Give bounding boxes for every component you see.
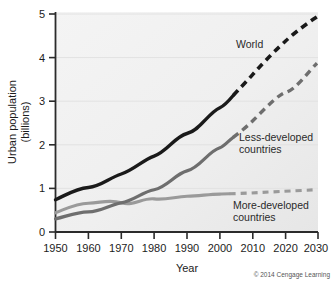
y-tick-label-5: 5 xyxy=(39,8,45,20)
x-tick-label-1960: 1960 xyxy=(76,242,100,254)
x-tick-label-1970: 1970 xyxy=(109,242,133,254)
x-tick-label-1990: 1990 xyxy=(175,242,199,254)
y-axis-title-line1: Urban population xyxy=(6,80,18,164)
series-label-world: World xyxy=(236,38,263,50)
series-label-more-developed-line2: countries xyxy=(233,211,276,223)
series-label-more-developed-line1: More-developed xyxy=(233,199,309,211)
y-tick-label-2: 2 xyxy=(39,139,45,151)
y-tick-label-3: 3 xyxy=(39,95,45,107)
chart-figure: 0 1 2 3 4 5 1950 1960 1970 1980 1990 200… xyxy=(0,0,334,289)
series-label-less-developed-line1: Less-developed xyxy=(239,131,313,143)
y-tick-label-0: 0 xyxy=(39,226,45,238)
x-tick-label-2010: 2010 xyxy=(241,242,265,254)
x-axis-ticks xyxy=(56,232,319,239)
urban-population-line-chart: 0 1 2 3 4 5 1950 1960 1970 1980 1990 200… xyxy=(0,0,334,289)
y-axis-title: Urban population (billions) xyxy=(6,80,31,164)
series-label-less-developed-line2: countries xyxy=(239,143,282,155)
y-tick-label-1: 1 xyxy=(39,182,45,194)
y-tick-label-4: 4 xyxy=(39,52,45,64)
y-axis-title-line2: (billions) xyxy=(19,102,31,143)
x-tick-label-1980: 1980 xyxy=(142,242,166,254)
x-tick-label-1950: 1950 xyxy=(43,242,67,254)
x-tick-label-2030: 2030 xyxy=(304,242,328,254)
copyright-credit: © 2014 Cengage Learning xyxy=(254,271,331,279)
x-tick-label-2020: 2020 xyxy=(273,242,297,254)
x-axis-title: Year xyxy=(176,262,199,274)
x-tick-label-2000: 2000 xyxy=(208,242,232,254)
